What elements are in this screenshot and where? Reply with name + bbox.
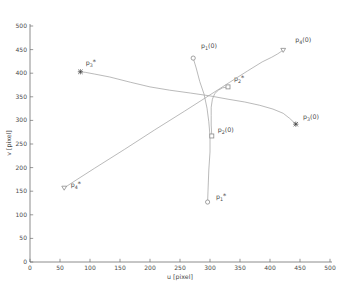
y-tick-label: 350: [16, 93, 28, 100]
x-tick-label: 300: [204, 264, 216, 271]
y-tick-label: 500: [16, 22, 28, 29]
square-marker-p2-end: [226, 85, 230, 89]
y-axis-label: v [pixel]: [5, 130, 13, 156]
y-tick-label: 150: [16, 187, 28, 194]
point-label-p1-start: p1(0): [201, 42, 217, 51]
point-label-p3-start: p3(0): [303, 113, 319, 122]
triangle-down-marker-p4-start: [281, 48, 286, 52]
feature-trajectory-chart: p1(0)p1*p2(0)p2*p3(0)p3*p4(0)p4*05010015…: [0, 0, 351, 293]
y-tick-label: 300: [16, 116, 28, 123]
trajectory-p1: p1(0)p1*: [191, 42, 226, 204]
y-tick-label: 200: [16, 164, 28, 171]
figure-canvas: p1(0)p1*p2(0)p2*p3(0)p3*p4(0)p4*05010015…: [0, 0, 351, 293]
triangle-down-marker-p4-end: [62, 186, 67, 190]
axes: 0501001502002503003504004505000501001502…: [5, 22, 336, 281]
x-tick-label: 350: [234, 264, 246, 271]
x-tick-label: 400: [264, 264, 276, 271]
x-tick-label: 150: [114, 264, 126, 271]
point-label-p2-start: p2(0): [218, 126, 234, 135]
x-axis-label: u [pixel]: [167, 273, 193, 281]
asterisk-marker-p3-start: [293, 122, 298, 127]
x-tick-label: 50: [56, 264, 64, 271]
y-tick-label: 250: [16, 140, 28, 147]
point-label-p1-goal: p1*: [216, 192, 226, 202]
point-label-p3-goal: p3*: [86, 58, 96, 68]
trajectory-p3: p3(0)p3*: [78, 58, 319, 127]
point-label-p4-start: p4(0): [295, 36, 311, 45]
x-tick-label: 450: [294, 264, 306, 271]
circle-marker-p1-end: [206, 200, 210, 204]
square-marker-p2-start: [210, 134, 214, 138]
y-tick-label: 50: [19, 234, 27, 241]
trajectory-path-p1: [193, 58, 210, 202]
trajectory-p4: p4(0)p4*: [62, 36, 311, 190]
y-tick-label: 0: [23, 258, 27, 265]
x-tick-label: 500: [324, 264, 336, 271]
y-tick-label: 450: [16, 46, 28, 53]
point-label-p4-goal: p4*: [71, 180, 81, 190]
circle-marker-p1-start: [191, 56, 195, 60]
y-tick-label: 100: [16, 211, 28, 218]
trajectory-path-p4: [64, 50, 283, 188]
x-tick-label: 0: [28, 264, 32, 271]
x-tick-label: 200: [144, 264, 156, 271]
y-tick-label: 400: [16, 69, 28, 76]
trajectory-path-p3: [80, 72, 295, 124]
x-tick-label: 100: [84, 264, 96, 271]
asterisk-marker-p3-end: [78, 69, 83, 74]
x-tick-label: 250: [174, 264, 186, 271]
